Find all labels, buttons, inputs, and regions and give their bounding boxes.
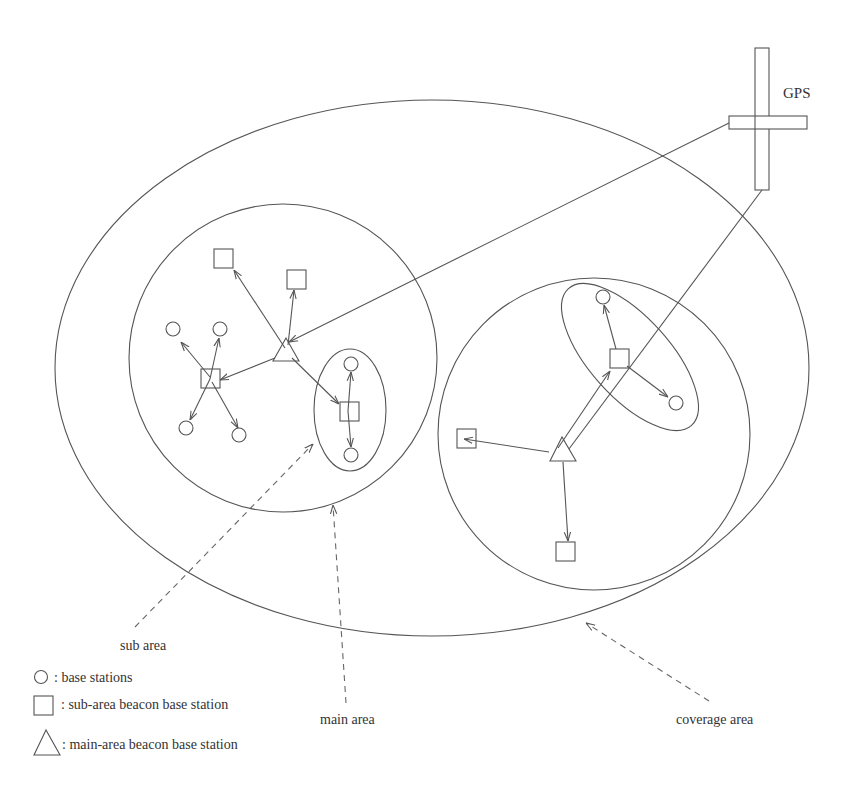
base-station-circle [344,448,358,462]
link-arrow [627,366,668,397]
link-arrow [558,371,610,448]
legend-triangle-icon [34,730,60,755]
sub-beacon-square [287,270,306,289]
gps-link-left [289,123,729,342]
main-area-callout [333,505,346,703]
gps-link-right [563,190,762,457]
base-station-circle [596,290,610,304]
sub-area-right-ellipse [539,262,722,452]
base-station-circle [213,322,227,336]
gps-satellite-icon [729,48,807,190]
link-arrow [220,358,275,380]
legend-label-sub-area-beacon: : sub-area beacon base station [61,697,228,712]
link-arrow [212,382,238,428]
base-station-circle [166,322,180,336]
coverage-area-label: coverage area [676,712,754,727]
sub-beacon-square [457,429,476,448]
sub-area-label: sub area [120,638,167,653]
link-arrow [190,379,210,420]
link-arrow [604,305,616,349]
gps-label: GPS [783,85,811,101]
main-area-label: main area [320,712,376,727]
sub-area-callout [135,444,313,627]
base-station-circle [344,357,358,371]
link-arrow [292,358,339,404]
legend-square-icon [34,696,53,715]
link-arrow [288,290,294,345]
sub-beacon-square [556,542,575,561]
link-arrow [181,342,210,377]
coverage-area-ellipse [55,100,809,636]
base-station-circle [179,421,193,435]
legend: : base stations : sub-area beacon base s… [34,670,238,755]
link-arrow [234,270,285,348]
sub-beacon-square [340,402,359,421]
base-station-circle [669,396,683,410]
legend-label-main-area-beacon: : main-area beacon base station [62,737,238,752]
sub-beacon-square [214,249,233,268]
coverage-area-callout [586,623,709,701]
legend-label-base-stations: : base stations [54,670,133,685]
main-beacon-triangle-left [273,338,299,361]
sub-beacon-square [610,349,629,368]
link-arrow [563,462,568,541]
link-arrow [464,439,549,452]
network-diagram: GPS sub area main area coverag [0,0,866,790]
legend-circle-icon [35,671,48,684]
main-area-right-circle [438,278,750,590]
base-station-circle [232,428,246,442]
